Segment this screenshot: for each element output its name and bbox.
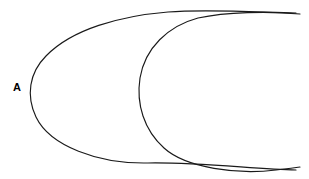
venn-diagram-svg xyxy=(0,0,309,179)
set-a-label: A xyxy=(13,82,21,93)
diagram-canvas: A xyxy=(0,0,309,179)
diagram-background xyxy=(0,0,309,179)
